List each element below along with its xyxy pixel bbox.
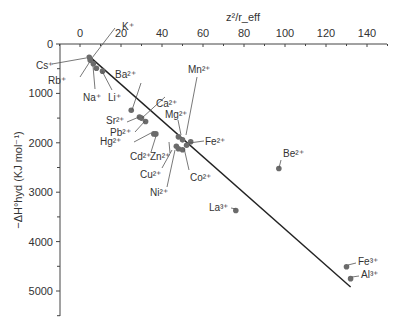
point-label: Li⁺ [108,92,121,103]
point-label: Al³⁺ [361,269,378,280]
data-point [143,119,149,125]
x-tick-label: 120 [317,27,335,39]
data-point [128,107,134,113]
data-point [94,65,100,71]
y-tick-label: 2000 [29,137,53,149]
point-label: Ca²⁺ [156,98,177,109]
fit-line [88,55,350,287]
x-tick-label: 80 [238,27,250,39]
data-point [184,142,190,148]
point-label: Ni²⁺ [150,187,168,198]
point-label: La³⁺ [209,202,228,213]
point-label: Mn²⁺ [188,64,210,75]
point-label: Cu²⁺ [140,169,161,180]
point-label: Mg²⁺ [165,109,187,120]
point-label: Fe³⁺ [358,256,378,267]
x-tick-label: 140 [358,27,376,39]
y-tick-label: 1000 [29,87,53,99]
point-labels: K⁺Cs⁺Rb⁺Na⁺Li⁺Ba²⁺Ca²⁺Sr²⁺Pb²⁺Hg²⁺Cd²⁺Zn… [36,21,378,280]
y-tick-label: 5000 [29,285,53,297]
data-point [153,131,159,137]
y-tick-label: 4000 [29,236,53,248]
x-tick-label: 40 [156,27,168,39]
point-label: Ba²⁺ [115,69,136,80]
point-label: Hg²⁺ [100,136,121,147]
scatter-chart: 020406080100120140010002000300040005000 … [0,0,399,329]
point-label: Rb⁺ [48,75,66,86]
x-tick-label: 0 [77,27,83,39]
point-label: Fe²⁺ [205,136,225,147]
point-label: K⁺ [122,21,134,32]
x-tick-label: 60 [197,27,209,39]
point-label: Zn²⁺ [150,151,170,162]
x-tick-label: 100 [276,27,294,39]
data-point [100,68,106,74]
point-label: Be²⁺ [283,148,304,159]
y-tick-label: 3000 [29,186,53,198]
data-point [180,137,186,143]
x-axis-label: z²/r_eff [226,11,261,23]
y-axis-label: −ΔH°hyd (KJ mol⁻¹) [12,131,24,229]
point-label: Co²⁺ [190,172,211,183]
point-label: Na⁺ [83,92,101,103]
data-point [276,166,282,172]
y-tick-label: 0 [47,38,53,50]
point-label: Sr²⁺ [106,115,124,126]
point-label: Cs⁺ [36,60,53,71]
point-label: Cd²⁺ [130,151,151,162]
